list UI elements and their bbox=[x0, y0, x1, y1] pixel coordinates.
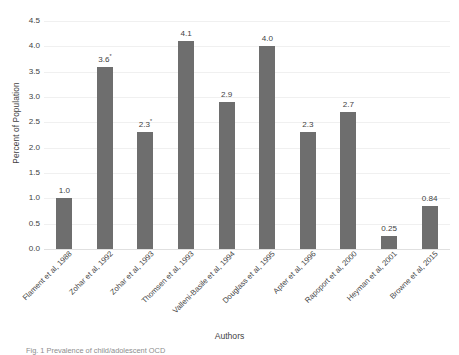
bar-value-label: 2.3 bbox=[302, 120, 313, 129]
bar bbox=[422, 206, 438, 249]
x-axis-title: Authors bbox=[0, 331, 459, 341]
x-tick-label: Browne et al, 2015 bbox=[363, 250, 439, 326]
y-tick-label: 2.0 bbox=[18, 144, 40, 152]
bar-group: 1.0 bbox=[44, 21, 85, 249]
figure: Percent of Population 4.54.03.53.02.52.0… bbox=[0, 0, 459, 355]
bar-value-label: 3.6* bbox=[98, 55, 111, 64]
plot-bars: 1.03.6*2.3*4.12.94.02.32.70.250.84 bbox=[44, 21, 450, 249]
x-tick-label: Zohar et al, 1993 bbox=[79, 250, 155, 326]
bar-group: 2.3* bbox=[125, 21, 166, 249]
x-axis-tick-labels: Flament et al, 1988Zohar et al, 1992Zoha… bbox=[44, 250, 450, 328]
bar-value-label: 2.9 bbox=[221, 90, 232, 99]
bar-group: 4.1 bbox=[166, 21, 207, 249]
bar-group: 3.6* bbox=[85, 21, 126, 249]
x-tick-label: Zohar et al, 1992 bbox=[38, 250, 114, 326]
bar-group: 0.25 bbox=[369, 21, 410, 249]
y-tick-label: 4.0 bbox=[18, 42, 40, 50]
bar bbox=[56, 198, 72, 249]
bar bbox=[381, 236, 397, 249]
x-tick-label: Flament et al, 1988 bbox=[0, 250, 74, 326]
x-tick-label: Douglass et al, 1995 bbox=[201, 250, 277, 326]
bar-value-label: 2.3* bbox=[139, 120, 152, 129]
x-tick-label: Heyman et al, 2001 bbox=[322, 250, 398, 326]
bar-group: 2.7 bbox=[328, 21, 369, 249]
x-tick-label: Apter et al, 1996 bbox=[241, 250, 317, 326]
bar-group: 0.84 bbox=[409, 21, 450, 249]
x-tick-label: Thomsen et al, 1993 bbox=[119, 250, 195, 326]
y-tick-label: 4.5 bbox=[18, 17, 40, 25]
bar-group: 2.3 bbox=[288, 21, 329, 249]
bar-chart: Percent of Population 4.54.03.53.02.52.0… bbox=[0, 0, 459, 331]
bar-group: 4.0 bbox=[247, 21, 288, 249]
bar bbox=[97, 67, 113, 249]
x-tick-label: Valleni-Basile et al, 1994 bbox=[160, 250, 236, 326]
y-axis-tick-labels: 4.54.03.53.02.52.01.51.00.50.0 bbox=[18, 21, 40, 249]
y-tick-label: 3.5 bbox=[18, 68, 40, 76]
y-tick-label: 1.0 bbox=[18, 194, 40, 202]
bar-value-label: 4.1 bbox=[180, 29, 191, 38]
y-tick-label: 1.5 bbox=[18, 169, 40, 177]
figure-caption: Fig. 1 Prevalence of child/adolescent OC… bbox=[0, 347, 459, 355]
bar bbox=[340, 112, 356, 249]
bar bbox=[300, 132, 316, 249]
bar bbox=[178, 41, 194, 249]
x-tick-label: Rapoport et al, 2000 bbox=[282, 250, 358, 326]
y-tick-label: 2.5 bbox=[18, 118, 40, 126]
y-tick-label: 0.5 bbox=[18, 220, 40, 228]
y-tick-label: 3.0 bbox=[18, 93, 40, 101]
bar bbox=[219, 102, 235, 249]
bar-value-label: 2.7 bbox=[343, 100, 354, 109]
bar-value-label: 1.0 bbox=[59, 186, 70, 195]
bar-group: 2.9 bbox=[206, 21, 247, 249]
bar-value-label: 4.0 bbox=[262, 34, 273, 43]
bar bbox=[137, 132, 153, 249]
bar-value-label: 0.25 bbox=[381, 224, 397, 233]
bar bbox=[259, 46, 275, 249]
bar-value-label: 0.84 bbox=[422, 194, 438, 203]
y-tick-label: 0.0 bbox=[18, 245, 40, 253]
